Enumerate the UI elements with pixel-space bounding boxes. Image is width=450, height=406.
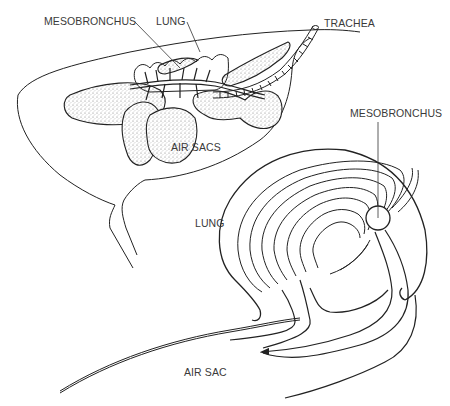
label-top-mesobronchus: MESOBRONCHUS (44, 16, 136, 27)
label-top-air-sacs: AIR SACS (171, 142, 221, 153)
label-top-trachea: TRACHEA (324, 18, 375, 29)
label-bottom-mesobronchus: MESOBRONCHUS (350, 108, 442, 119)
label-bottom-lung: LUNG (195, 218, 225, 229)
bottom-air-ducts (230, 230, 416, 398)
bottom-air-sac-outline (60, 318, 300, 393)
label-bottom-air-sac: AIR SAC (184, 367, 227, 378)
diagram-canvas: MESOBRONCHUS LUNG TRACHEA AIR SACS MESOB… (0, 0, 450, 406)
label-top-lung: LUNG (156, 16, 186, 27)
bird-respiratory-drawing (0, 0, 450, 406)
bottom-parabronchi (238, 161, 419, 292)
